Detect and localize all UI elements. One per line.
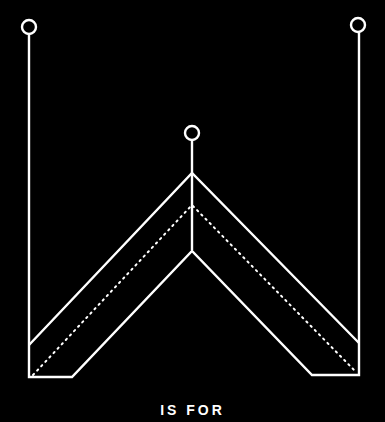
letter-w-illustration [0, 0, 385, 422]
caption-text: IS FOR [0, 402, 385, 418]
left-circle-icon [22, 20, 36, 34]
right-circle-icon [351, 18, 365, 32]
middle-circle-icon [185, 126, 199, 140]
w-upper-edge [29, 173, 359, 345]
